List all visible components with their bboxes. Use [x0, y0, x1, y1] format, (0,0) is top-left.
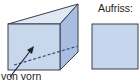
elevation-view-rectangle	[92, 24, 138, 69]
front-view-label: von vorn	[1, 71, 41, 82]
elevation-title: Aufriss:	[98, 3, 133, 14]
cuboid-front-face	[8, 24, 60, 70]
